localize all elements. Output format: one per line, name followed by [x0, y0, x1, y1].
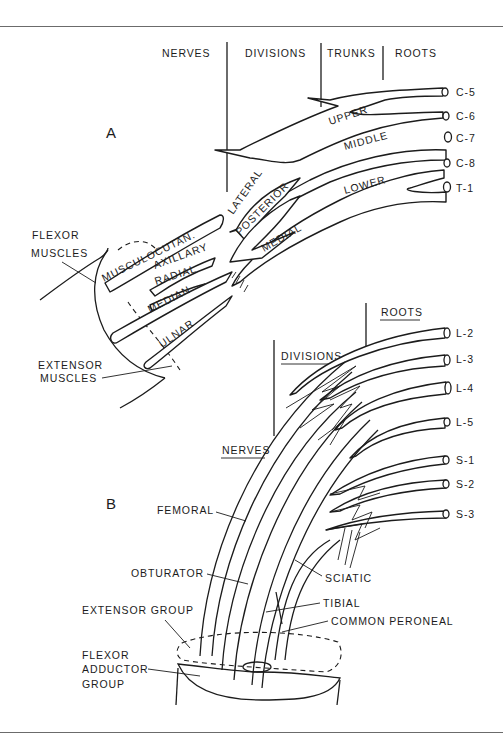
header-trunks-a: TRUNKS — [327, 47, 376, 59]
panel-b: ROOTS DIVISIONS NERVES B L-2 L-3 L-4 L-5… — [82, 303, 475, 705]
root-c5: C-5 — [456, 86, 476, 98]
brachial-lumbosacral-plexus-diagram: NERVES DIVISIONS TRUNKS ROOTS A C-5 C-6 … — [0, 0, 503, 743]
header-nerves-b: NERVES — [222, 444, 270, 456]
thigh-left-edge — [176, 668, 178, 705]
root-end-c6 — [443, 112, 449, 120]
nerve-sciatic: SCIATIC — [325, 572, 372, 584]
header-divisions-b: DIVISIONS — [281, 350, 342, 362]
nerve-obturator: OBTURATOR — [131, 567, 204, 579]
root-l2: L-2 — [456, 327, 474, 339]
root-end-s2 — [443, 480, 449, 488]
root-end-l5 — [444, 418, 450, 426]
header-roots-a: ROOTS — [395, 47, 437, 59]
obturator-leader — [207, 574, 248, 584]
root-end-s1 — [443, 456, 449, 464]
extensor-muscles-leader — [102, 366, 172, 378]
extensor-muscles-label-2: MUSCLES — [40, 372, 97, 384]
root-l5-shape — [350, 418, 445, 458]
root-t1: T-1 — [456, 182, 474, 194]
root-l4: L-4 — [456, 382, 474, 394]
header-roots-b: ROOTS — [381, 306, 423, 318]
flexor-adductor-label-2: ADDUCTOR — [82, 663, 149, 675]
nerve-femoral: FEMORAL — [157, 504, 214, 516]
root-s2: S-2 — [456, 478, 475, 490]
tibial-leader — [266, 603, 320, 612]
root-end-l4 — [445, 382, 451, 394]
root-l3: L-3 — [456, 353, 474, 365]
nerve-tibial: TIBIAL — [323, 597, 361, 609]
root-c7: C-7 — [456, 132, 476, 144]
root-l5: L-5 — [456, 416, 474, 428]
root-c6: C-6 — [456, 110, 476, 122]
lumbar-division-zigzags — [286, 366, 360, 445]
panel-a: NERVES DIVISIONS TRUNKS ROOTS A C-5 C-6 … — [31, 42, 476, 408]
thigh-right-edge — [337, 680, 340, 705]
header-nerves-a: NERVES — [162, 47, 210, 59]
root-end-c7 — [445, 132, 452, 142]
common-peroneal-leader — [282, 621, 328, 632]
root-s1: S-1 — [456, 454, 475, 466]
flexor-adductor-leader — [148, 669, 200, 676]
root-c8: C-8 — [456, 157, 476, 169]
femoral-outer-line — [200, 362, 345, 656]
panel-a-label: A — [106, 124, 116, 141]
flexor-adductor-label-1: FLEXOR — [82, 649, 129, 661]
root-end-s3 — [443, 510, 449, 518]
flexor-adductor-shape — [178, 664, 340, 700]
flexor-adductor-label-3: GROUP — [82, 678, 125, 690]
flexor-muscles-label-1: FLEXOR — [32, 229, 79, 241]
extensor-group-label: EXTENSOR GROUP — [82, 604, 194, 616]
arm-lower-outline — [120, 378, 165, 408]
extensor-group-leader — [165, 620, 190, 648]
panel-b-label: B — [106, 495, 116, 512]
root-end-l2 — [444, 328, 450, 338]
root-end-c5 — [442, 88, 448, 96]
flexor-muscles-label-2: MUSCLES — [31, 247, 88, 259]
root-end-l3 — [444, 355, 450, 365]
header-divisions-a: DIVISIONS — [245, 47, 306, 59]
nerve-common-peroneal: COMMON PERONEAL — [331, 615, 454, 627]
root-s3: S-3 — [456, 508, 475, 520]
root-end-c8 — [444, 159, 450, 167]
extensor-muscles-label-1: EXTENSOR — [38, 359, 103, 371]
root-end-t1 — [444, 182, 451, 192]
